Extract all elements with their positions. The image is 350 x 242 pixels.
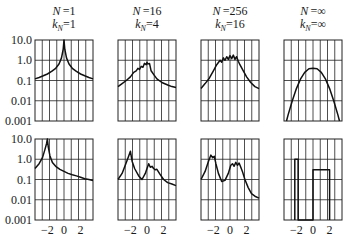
figure [0,0,350,242]
x-tick-label: 2 [239,224,255,236]
x-tick-label: 2 [156,224,172,236]
x-tick-label: −2 [122,224,138,236]
x-tick-label: 2 [322,224,338,236]
column-header-0: N =1kN=1 [29,5,99,35]
panel-r0-c2 [201,40,259,121]
panel-r1-c2 [201,139,259,220]
y-tick-label: 0.001 [0,115,32,127]
x-tick-label: −2 [205,224,221,236]
curve-r1-c3 [295,159,330,220]
y-tick-label: 1.0 [0,153,32,165]
x-tick-label: 2 [73,224,89,236]
x-tick-label: 0 [139,224,155,236]
y-tick-label: 0.1 [0,75,32,87]
y-tick-label: 1.0 [0,54,32,66]
panel-r1-c1 [118,139,176,220]
panel-r0-c3 [284,40,342,121]
y-tick-label: 0.1 [0,174,32,186]
x-tick-label: −2 [288,224,304,236]
x-tick-label: 0 [222,224,238,236]
y-tick-label: 0.001 [0,214,32,226]
column-header-3: N =∞kN=∞ [278,5,348,35]
column-header-1: N =16kN=4 [112,5,182,35]
x-tick-label: 0 [56,224,72,236]
y-tick-label: 10.0 [0,133,32,145]
y-tick-label: 10.0 [0,34,32,46]
panel-r0-c0 [35,40,93,121]
x-tick-label: 0 [305,224,321,236]
y-tick-label: 0.01 [0,194,32,206]
y-tick-label: 0.01 [0,95,32,107]
column-header-2: N =256kN=16 [195,5,265,35]
x-tick-label: −2 [39,224,55,236]
